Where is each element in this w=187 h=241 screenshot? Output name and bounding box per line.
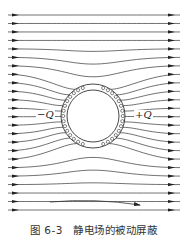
shield-conductor: [61, 84, 125, 148]
negative-charge-label: −Q: [36, 110, 55, 120]
positive-charge-label: +Q: [134, 110, 153, 120]
shield-diagram: [0, 0, 187, 241]
figure-caption: 图 6-3静电场的被动屏蔽: [0, 222, 187, 237]
caption-number: 图 6-3: [30, 224, 63, 236]
caption-text: 静电场的被动屏蔽: [73, 224, 157, 236]
